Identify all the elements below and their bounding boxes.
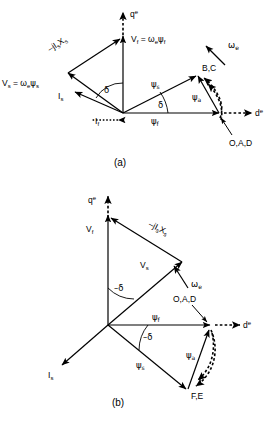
panel-b-omega-label: ωe bbox=[191, 279, 202, 290]
panel-b-jisxs-label: –jIsXs bbox=[147, 219, 170, 238]
panel-a-dashed-flux-path bbox=[204, 78, 222, 118]
panel-a-delta-lower-label: δ bbox=[158, 100, 163, 110]
phasor-diagram-canvas: qe de Vf = ωeψf Vs = ωeψs –jIsXs Is If ψ… bbox=[0, 0, 273, 425]
panel-b-vector-jisxs bbox=[111, 218, 182, 262]
panel-a-bc-label: B,C bbox=[202, 63, 216, 73]
panel-a-delta-upper-label: δ bbox=[104, 85, 109, 95]
panel-b-psif-label: ψf bbox=[152, 312, 161, 323]
panel-a-d-axis-label: de bbox=[255, 108, 264, 118]
panel-b-oad-label: O,A,D bbox=[173, 294, 196, 304]
panel-b-delta-upper-label: –δ bbox=[114, 283, 123, 293]
panel-b-vector-is bbox=[62, 325, 108, 365]
panel-b-vs-label: Vs bbox=[140, 260, 149, 271]
panel-b-d-axis-label: de bbox=[243, 320, 252, 330]
panel-a: qe de Vf = ωeψf Vs = ωeψs –jIsXs Is If ψ… bbox=[2, 9, 264, 168]
panel-a-q-axis-label: qe bbox=[130, 9, 139, 19]
panel-b-psia-label: ψa bbox=[186, 350, 196, 361]
phasor-diagram-figure: qe de Vf = ωeψf Vs = ωeψs –jIsXs Is If ψ… bbox=[0, 0, 273, 425]
panel-b-q-axis-label: qe bbox=[88, 195, 97, 205]
panel-b-delta-lower-label: –δ bbox=[143, 332, 152, 342]
panel-b-vector-omega-e bbox=[174, 266, 188, 288]
panel-b-caption: (b) bbox=[112, 397, 124, 408]
panel-a-oad-label: O,A,D bbox=[229, 138, 252, 148]
panel-b-fe-label: F,E bbox=[191, 391, 204, 401]
panel-a-vf-label: Vf = ωeψf bbox=[131, 34, 166, 45]
panel-a-vector-jisxs bbox=[68, 39, 120, 73]
panel-a-omega-label: ωe bbox=[228, 40, 239, 51]
panel-a-psis-label: ψs bbox=[151, 79, 160, 90]
panel-a-pointer-oad bbox=[221, 118, 232, 135]
panel-a-vs-label: Vs = ωeψs bbox=[2, 78, 39, 89]
panel-b-vf-label: Vf bbox=[86, 224, 94, 235]
panel-a-if-label: If bbox=[95, 116, 99, 127]
panel-a-psif-label: ψf bbox=[151, 116, 160, 127]
panel-a-jisxs-label: –jIsXs bbox=[46, 34, 69, 54]
panel-a-caption: (a) bbox=[114, 157, 126, 168]
panel-b-is-label: Is bbox=[48, 370, 53, 381]
panel-b-pointer-oad bbox=[192, 305, 207, 322]
panel-b-vector-vs bbox=[108, 262, 182, 325]
panel-b: qe de Vf Vs –jIsXs Is ψf ψs ψa ωe –δ –δ … bbox=[48, 195, 252, 408]
panel-b-psis-label: ψs bbox=[136, 360, 145, 371]
panel-a-psia-label: ψa bbox=[192, 92, 202, 103]
panel-a-is-label: Is bbox=[58, 91, 63, 102]
